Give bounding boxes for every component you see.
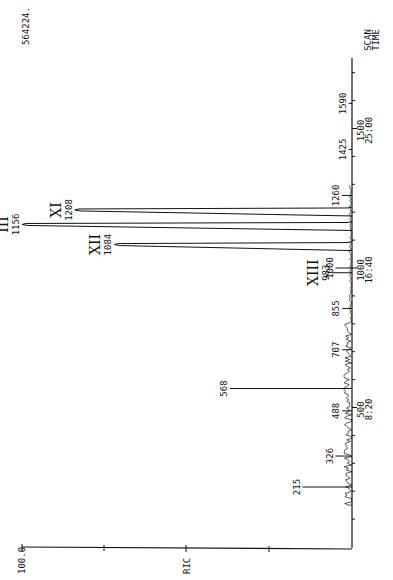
peak-label: 1084 [103, 234, 113, 256]
compound-label: XI [48, 202, 64, 218]
peak-label: 1425 [338, 139, 348, 161]
peak-label: 707 [331, 342, 341, 358]
peak-label: 488 [331, 403, 341, 419]
ric-label: RIC [182, 558, 192, 574]
time-tick-label: 8:20 [364, 399, 374, 421]
peak-label: 1590 [338, 93, 348, 115]
peak-label: 855 [331, 300, 341, 316]
intensity-axis [22, 547, 352, 549]
peak-traces [22, 103, 352, 505]
peak-label: 1000 [325, 257, 335, 279]
peak-label: 215 [292, 479, 302, 495]
total-counts-label: 564224. [21, 7, 31, 45]
peak-trace [22, 221, 352, 230]
chromatogram: 564224. SCAN TIME 5008:20100016:40150025… [0, 0, 393, 580]
peak-trace [114, 242, 352, 251]
peak-label: 1260 [331, 185, 341, 207]
compound-label: XII [87, 234, 103, 255]
time-tick-label: 25:00 [364, 117, 374, 144]
peak-label: 326 [325, 448, 335, 464]
time-axis-label: TIME [371, 29, 381, 51]
baseline-noise [344, 185, 352, 505]
axis-ticks: 5008:20100016:40150025:00 [352, 73, 374, 519]
peak-labels: 215326488568707855983XIII10001084XII1156… [0, 93, 348, 496]
compound-label: XIII [305, 259, 321, 286]
peak-label: 1208 [64, 199, 74, 221]
peak-label: 568 [219, 380, 229, 396]
compound-label: III [0, 216, 11, 233]
peak-trace [75, 207, 352, 216]
max-intensity-label: 100.0 [17, 547, 27, 574]
peak-label: 1156 [11, 214, 21, 236]
time-tick-label: 16:40 [364, 256, 374, 283]
